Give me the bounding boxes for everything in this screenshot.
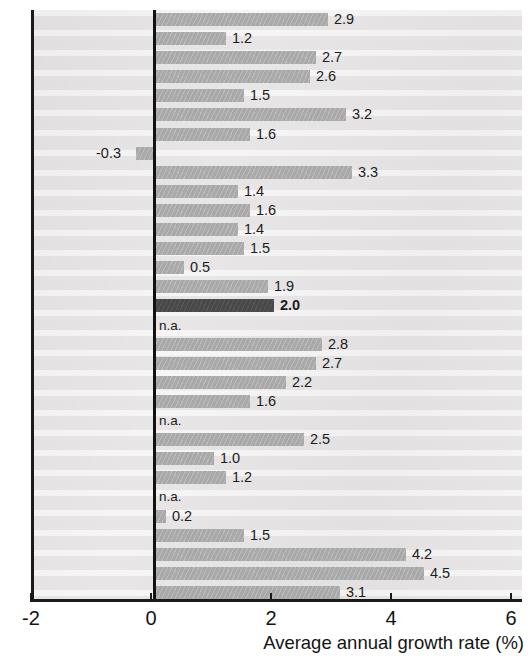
bar-row: 2.6 (34, 67, 522, 87)
bar-row: 1.5 (34, 526, 522, 546)
bar-value-label: 0.5 (190, 258, 210, 277)
y-axis-tick (31, 163, 34, 165)
x-axis-tick (510, 593, 512, 602)
bar-value-label: n.a. (159, 316, 182, 335)
bar-row: 1.4 (34, 220, 522, 240)
bar-row: 1.4 (34, 182, 522, 202)
bar (154, 51, 316, 64)
bar-value-label: 2.5 (310, 430, 330, 449)
bar (154, 376, 286, 389)
zero-reference-line (153, 10, 156, 599)
bar-value-label: 3.3 (358, 163, 378, 182)
y-axis-tick (31, 258, 34, 260)
bar (154, 166, 352, 179)
bar-row: -0.3 (34, 144, 522, 164)
y-axis-tick (31, 277, 34, 279)
bar-value-label: 1.9 (274, 277, 294, 296)
bar (154, 108, 346, 121)
y-axis-tick (31, 373, 34, 375)
y-axis-tick (31, 430, 34, 432)
x-axis-title: Average annual growth rate (%) (263, 632, 524, 654)
x-axis-tick (150, 593, 152, 602)
bar-value-label: 2.6 (316, 67, 336, 86)
y-axis-tick (31, 583, 34, 585)
bar-row: n.a. (34, 487, 522, 507)
bar (154, 128, 250, 141)
bar (154, 567, 424, 580)
bar-value-label: 1.6 (256, 392, 276, 411)
bar-value-label: 2.0 (280, 296, 300, 315)
bar-row: 1.6 (34, 201, 522, 221)
y-axis-tick (31, 201, 34, 203)
bar-row: 2.2 (34, 373, 522, 393)
y-axis-tick (31, 239, 34, 241)
bar-value-label: 2.8 (328, 335, 348, 354)
y-axis-tick (31, 449, 34, 451)
bar (154, 204, 250, 217)
bar (136, 147, 154, 160)
bar (154, 242, 244, 255)
bar (154, 280, 268, 293)
bar-row: 1.9 (34, 277, 522, 297)
y-axis-tick (31, 487, 34, 489)
bar (154, 395, 250, 408)
bar-value-label: 1.5 (250, 526, 270, 545)
bar-row: 3.1 (34, 583, 522, 602)
bar-value-label: 4.5 (430, 564, 450, 583)
bar-value-label: 1.2 (232, 29, 252, 48)
bar-value-label: 4.2 (412, 545, 432, 564)
bar-highlighted (154, 299, 274, 312)
y-axis-tick (31, 411, 34, 413)
bar-row: 4.5 (34, 564, 522, 584)
bar-row: 2.5 (34, 430, 522, 450)
bar (154, 261, 184, 274)
y-axis-tick (31, 220, 34, 222)
bar-row: 0.5 (34, 258, 522, 278)
bar-value-label: 1.4 (244, 220, 264, 239)
y-axis-tick (31, 392, 34, 394)
y-axis-tick (31, 125, 34, 127)
bar-value-label: 3.1 (346, 583, 366, 602)
bar-row: 2.8 (34, 335, 522, 355)
bar-value-label: 1.6 (256, 125, 276, 144)
x-axis-tick-label: 0 (145, 607, 156, 630)
y-axis-tick (31, 526, 34, 528)
bar-value-label: 1.6 (256, 201, 276, 220)
bar-row: 1.6 (34, 125, 522, 145)
bar-value-label: n.a. (159, 487, 182, 506)
bar-row: n.a. (34, 316, 522, 336)
x-axis-tick-label: 6 (505, 607, 516, 630)
bar-value-label: 2.7 (322, 354, 342, 373)
y-axis-tick (31, 316, 34, 318)
bar-value-label: 1.0 (220, 449, 240, 468)
x-axis-tick (30, 593, 32, 602)
y-axis-tick (31, 354, 34, 356)
x-axis-tick-label: -2 (22, 607, 40, 630)
y-axis-tick (31, 10, 34, 12)
bar-value-label: 2.7 (322, 48, 342, 67)
bar-row: 1.2 (34, 29, 522, 49)
bar-row: 1.0 (34, 449, 522, 469)
bar-value-label: 1.2 (232, 468, 252, 487)
bar (154, 13, 328, 26)
bar (154, 89, 244, 102)
y-axis-tick (31, 335, 34, 337)
bar (154, 452, 214, 465)
y-axis-tick (31, 564, 34, 566)
y-axis-tick (31, 296, 34, 298)
bar-value-label: 1.5 (250, 86, 270, 105)
bar-row: 1.5 (34, 86, 522, 106)
bar (154, 338, 322, 351)
bar-row: 2.9 (34, 10, 522, 30)
plot-area: 2.91.22.72.61.53.21.6-0.33.31.41.61.41.5… (31, 10, 522, 602)
bar-value-label: 1.5 (250, 239, 270, 258)
bar (154, 185, 238, 198)
bar-value-label: -0.3 (96, 144, 121, 163)
y-axis-tick (31, 29, 34, 31)
x-axis-tick-label: 2 (265, 607, 276, 630)
bar-row: 4.2 (34, 545, 522, 565)
bar-value-label: 0.2 (172, 507, 192, 526)
bar (154, 32, 226, 45)
y-axis-tick (31, 86, 34, 88)
bar-row: 1.5 (34, 239, 522, 259)
